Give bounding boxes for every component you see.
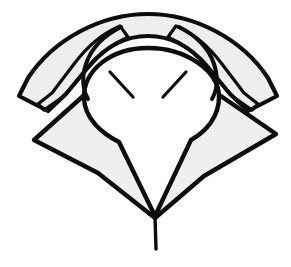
collar-illustration [0, 0, 291, 267]
center-front-placket-line [155, 216, 156, 249]
illustration-canvas [0, 0, 291, 267]
